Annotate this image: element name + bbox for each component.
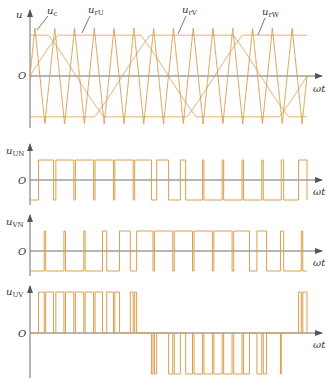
leader-carrier	[37, 16, 48, 30]
label-carrier: uc	[47, 5, 57, 18]
leader-ref-u	[82, 16, 90, 33]
label-ref-w: urW	[262, 6, 280, 19]
leader-ref-v	[178, 16, 186, 34]
label-ref-u: urU	[88, 4, 104, 17]
spwm-figure: u O ωt uc urU urV urW uUN O ωt uVN O ωt …	[0, 0, 334, 389]
leader-ref-w	[258, 18, 265, 35]
y-axis-label: u	[16, 9, 22, 20]
origin-label: O	[18, 328, 26, 339]
panel-u-uv: uUV O ωt	[6, 286, 326, 378]
origin-label: O	[18, 70, 26, 81]
y-axis-label: uUN	[6, 145, 24, 158]
x-axis-label: ωt	[313, 339, 326, 350]
panel-u-vn: uVN O ωt	[6, 215, 326, 276]
panel-u-un: uUN O ωt	[6, 144, 326, 205]
y-axis-label: uUV	[6, 286, 24, 299]
origin-label: O	[18, 175, 26, 186]
label-ref-v: urV	[182, 4, 198, 17]
x-axis-label: ωt	[313, 186, 326, 197]
origin-label: O	[18, 246, 26, 257]
panel-carrier-reference: u O ωt uc urU urV urW	[16, 4, 326, 128]
x-axis-label: ωt	[313, 83, 326, 94]
y-axis-label: uVN	[6, 216, 24, 229]
x-axis-label: ωt	[313, 257, 326, 268]
